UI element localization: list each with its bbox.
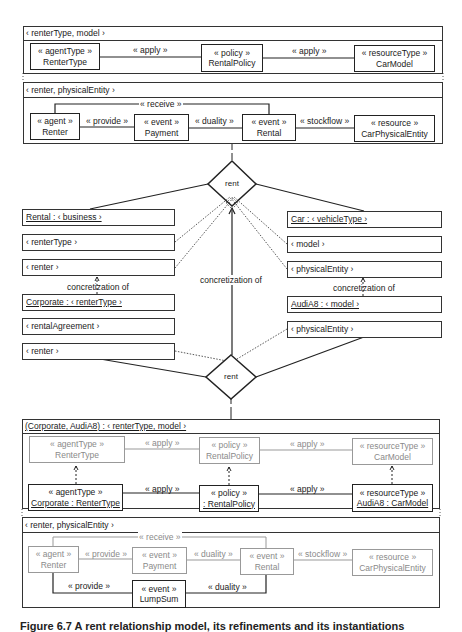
stereotype-label: « policy »	[212, 440, 248, 451]
receive-link-label-grey: « receive »	[138, 532, 182, 542]
stockflow-link-label-grey: « stockflow »	[297, 549, 348, 559]
car-vehicle-type-title[interactable]: Car : ‹ vehicleType ›	[287, 211, 442, 228]
car-model-box-grey[interactable]: « resourceType » CarModel	[352, 438, 433, 465]
box-name: Rental	[255, 562, 280, 573]
stereotype-label: « agentType »	[38, 46, 92, 57]
apply-link-label: « apply »	[289, 484, 326, 494]
stereotype-label: « agentType »	[50, 439, 104, 450]
rental-box[interactable]: « event » Rental	[242, 114, 296, 141]
stereotype-label: « resourceType »	[362, 48, 428, 59]
type-level-header: ‹ renterType, model ›	[23, 26, 105, 40]
duality-link-label: « duality »	[207, 582, 248, 592]
renter-type-box[interactable]: « agentType » RenterType	[30, 43, 100, 70]
payment-box[interactable]: « event » Payment	[134, 114, 189, 141]
box-name: RenterType	[55, 450, 99, 461]
stereotype-label: « resourceType »	[360, 441, 426, 452]
stereotype-label: « resource »	[369, 552, 416, 563]
duality-link-label: « duality »	[194, 116, 235, 126]
apply-link-label: « apply »	[144, 484, 181, 494]
box-name: CarModel	[374, 452, 411, 463]
rental-agreement-role[interactable]: ‹ rentalAgreement ›	[22, 318, 175, 335]
instance-level-header: ‹ renter, physicalEntity ›	[23, 83, 115, 97]
box-name: Rental	[257, 128, 282, 139]
physical-entity-role[interactable]: ‹ physicalEntity ›	[287, 261, 442, 278]
rent-diamond-top[interactable]: rent	[212, 179, 252, 188]
car-model-box[interactable]: « resourceType » CarModel	[354, 45, 435, 72]
stereotype-label: « resourceType »	[360, 488, 426, 499]
car-physical-entity-box[interactable]: « resource » CarPhysicalEntity	[354, 115, 435, 142]
box-name: RentalPolicy	[208, 58, 255, 69]
concretization-label-center: concretization of	[199, 275, 263, 285]
box-name: RentalPolicy	[206, 451, 253, 462]
box-name: CarPhysicalEntity	[361, 129, 428, 140]
stereotype-label: « event »	[144, 117, 179, 128]
box-name: Payment	[145, 128, 179, 139]
rental-box-grey[interactable]: « event » Rental	[240, 548, 294, 575]
receive-link-label: « receive »	[139, 99, 183, 109]
rental-business-title[interactable]: Rental : ‹ business ›	[22, 209, 175, 226]
stereotype-label: « event »	[252, 117, 287, 128]
rental-policy-box[interactable]: « policy » RentalPolicy	[201, 44, 263, 72]
renter-box-grey[interactable]: « agent » Renter	[28, 546, 79, 573]
duality-link-label-grey: « duality »	[193, 549, 234, 559]
apply-link-label-grey: « apply »	[289, 439, 326, 449]
box-name: RenterType	[43, 57, 87, 68]
audia8-car-model-box[interactable]: « resourceType » AudiA8 : CarModel	[352, 484, 433, 512]
box-name: Renter	[42, 127, 68, 138]
concretization-label-right: concretization of	[332, 283, 396, 293]
model-role[interactable]: ‹ model ›	[287, 236, 442, 253]
box-name: Payment	[143, 561, 177, 572]
rent-diamond-bottom[interactable]: rent	[211, 372, 251, 381]
renter-type-role[interactable]: ‹ renterType ›	[22, 234, 175, 251]
stereotype-label: « agent »	[37, 116, 72, 127]
stereotype-label: « event »	[142, 550, 177, 561]
concretization-label-left: concretization of	[66, 282, 130, 292]
renter-role-corporate[interactable]: ‹ renter ›	[22, 343, 175, 360]
physical-entity-role-audia8[interactable]: ‹ physicalEntity ›	[287, 321, 442, 338]
stereotype-label: « agentType »	[49, 487, 103, 498]
rental-policy-instance-box[interactable]: « policy » : RentalPolicy	[199, 485, 259, 512]
apply-link-label: « apply »	[132, 45, 169, 55]
payment-box-grey[interactable]: « event » Payment	[132, 547, 187, 574]
audia8-model-title[interactable]: AudiA8 : ‹ model ›	[287, 296, 442, 313]
lump-sum-box[interactable]: « event » LumpSum	[132, 580, 186, 608]
stereotype-label: « policy »	[211, 488, 247, 499]
box-name: Renter	[41, 560, 67, 571]
box-name: CarModel	[376, 59, 413, 70]
box-name: Corporate : RenterType	[31, 498, 120, 509]
stereotype-label: « resource »	[371, 118, 418, 129]
instantiated-type-header: (Corporate, AudiA8) : ‹ renterType, mode…	[22, 419, 186, 433]
apply-link-label: « apply »	[291, 46, 328, 56]
apply-link-label-grey: « apply »	[144, 438, 181, 448]
instantiated-instance-header: ‹ renter, physicalEntity ›	[22, 518, 114, 532]
stereotype-label: « policy »	[214, 48, 250, 59]
provide-link-label: « provide »	[85, 116, 129, 126]
box-name: : RentalPolicy	[203, 499, 255, 510]
car-physical-entity-box-grey[interactable]: « resource » CarPhysicalEntity	[352, 549, 433, 576]
box-name: CarPhysicalEntity	[359, 563, 426, 574]
stereotype-label: « agent »	[36, 549, 71, 560]
corporate-renter-type-title[interactable]: Corporate : ‹ renterType ›	[22, 294, 175, 311]
stockflow-link-label: « stockflow »	[299, 116, 350, 126]
renter-type-box-grey[interactable]: « agentType » RenterType	[29, 436, 125, 463]
stereotype-label: « event »	[250, 551, 285, 562]
figure-caption: Figure 6.7 A rent relationship model, it…	[20, 620, 404, 632]
renter-box[interactable]: « agent » Renter	[30, 113, 80, 140]
provide-link-label-grey: « provide »	[84, 549, 128, 559]
box-name: AudiA8 : CarModel	[357, 498, 428, 509]
corporate-renter-type-box[interactable]: « agentType » Corporate : RenterType	[28, 484, 123, 511]
provide-link-label: « provide »	[67, 581, 111, 591]
rental-policy-box-grey[interactable]: « policy » RentalPolicy	[199, 437, 260, 464]
box-name: LumpSum	[140, 594, 179, 605]
renter-role[interactable]: ‹ renter ›	[22, 259, 175, 276]
stereotype-label: « event »	[142, 584, 177, 595]
